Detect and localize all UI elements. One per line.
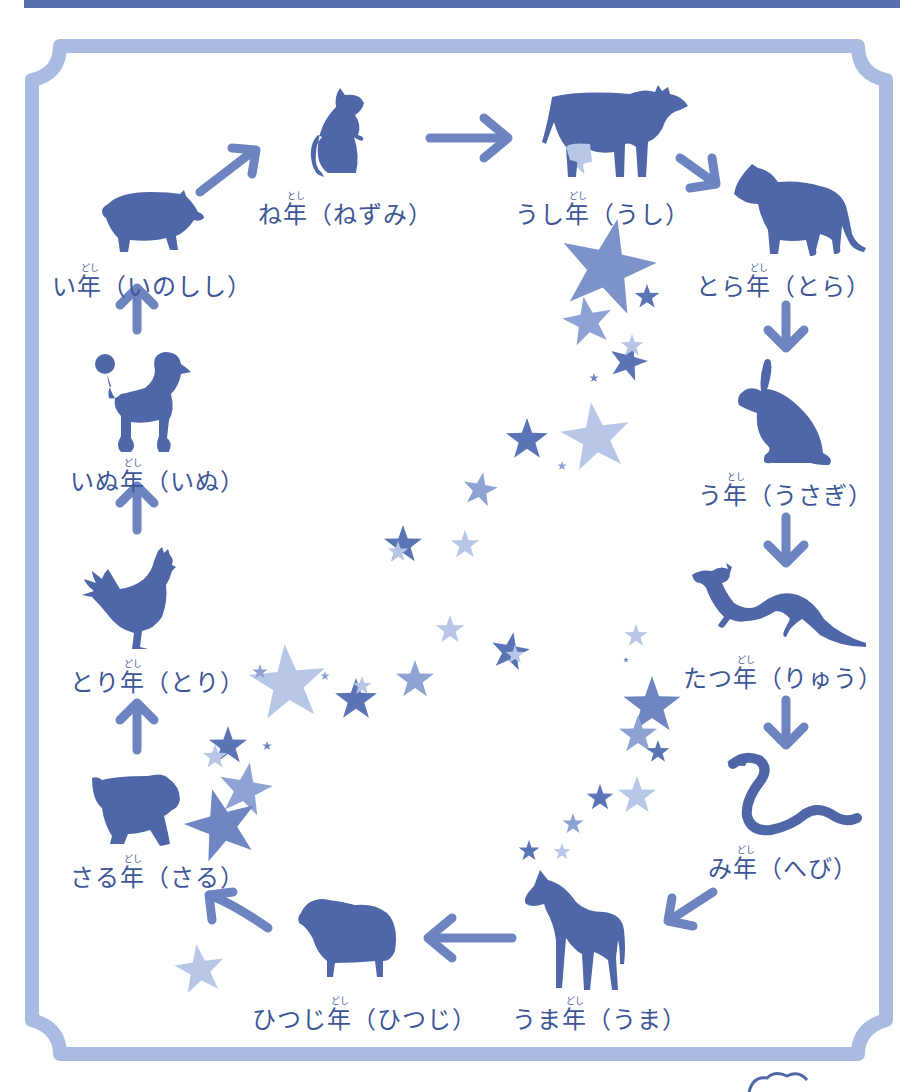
label-ne: ねとし年（ねずみ） bbox=[258, 203, 433, 227]
label-prefix: うし bbox=[515, 201, 565, 229]
ruby-toshi: どし bbox=[124, 855, 142, 864]
ruby-toshi: どし bbox=[331, 997, 349, 1006]
arrow-icon-ne-to-ushi bbox=[430, 118, 508, 158]
ruby-toshi: どし bbox=[81, 264, 99, 273]
label-reading: （いぬ） bbox=[145, 468, 245, 496]
ruby-toshi: どし bbox=[750, 264, 768, 273]
kanji-year: 年 bbox=[562, 1006, 587, 1034]
label-reading: （うさぎ） bbox=[748, 482, 873, 510]
label-u: うとし年（うさぎ） bbox=[698, 484, 873, 508]
label-ushi: うしどし年（うし） bbox=[515, 203, 690, 227]
label-inu: いぬどし年（いぬ） bbox=[70, 470, 245, 494]
arrow-icon-saru-to-tori bbox=[120, 703, 154, 750]
label-reading: （へび） bbox=[758, 855, 858, 883]
label-reading: （うし） bbox=[590, 201, 690, 229]
arrow-icon-i-to-ne bbox=[200, 148, 256, 192]
ruby-toshi: どし bbox=[566, 997, 584, 1006]
sheep-icon bbox=[295, 895, 400, 980]
kanji-year: 年 bbox=[327, 1006, 352, 1034]
kanji-year: 年 bbox=[120, 669, 145, 697]
label-prefix: さる bbox=[70, 864, 120, 892]
label-reading: （とら） bbox=[771, 273, 871, 301]
monkey-icon bbox=[88, 772, 188, 852]
poodle-icon bbox=[95, 350, 195, 455]
label-prefix: い bbox=[52, 273, 77, 301]
label-prefix: とら bbox=[696, 273, 746, 301]
label-reading: （ねずみ） bbox=[308, 201, 433, 229]
label-prefix: うま bbox=[512, 1006, 562, 1034]
label-reading: （うま） bbox=[587, 1006, 687, 1034]
ruby-toshi: どし bbox=[737, 656, 755, 665]
arrow-icon-u-to-tatsu bbox=[768, 517, 804, 563]
ruby-toshi: どし bbox=[124, 660, 142, 669]
cloud-swirl-icon bbox=[745, 1070, 835, 1092]
label-reading: （ひつじ） bbox=[352, 1006, 477, 1034]
label-prefix: たつ bbox=[683, 665, 733, 693]
ruby-toshi: どし bbox=[569, 192, 587, 201]
kanji-year: 年 bbox=[723, 482, 748, 510]
label-prefix: とり bbox=[70, 669, 120, 697]
label-reading: （りゅう） bbox=[758, 665, 883, 693]
kanji-year: 年 bbox=[746, 273, 771, 301]
label-uma: うまどし年（うま） bbox=[512, 1008, 687, 1032]
label-hitsuji: ひつじどし年（ひつじ） bbox=[252, 1008, 477, 1032]
label-prefix: ね bbox=[258, 201, 283, 229]
kanji-year: 年 bbox=[120, 468, 145, 496]
label-tora: とらどし年（とら） bbox=[696, 275, 871, 299]
kanji-year: 年 bbox=[120, 864, 145, 892]
ruby-toshi: とし bbox=[727, 473, 745, 482]
arrow-icon-uma-to-hitsuji bbox=[428, 918, 512, 958]
rat-icon bbox=[300, 85, 380, 180]
kanji-year: 年 bbox=[733, 665, 758, 693]
label-tori: とりどし年（とり） bbox=[70, 671, 245, 695]
ruby-toshi: どし bbox=[124, 459, 142, 468]
label-prefix: う bbox=[698, 482, 723, 510]
kanji-year: 年 bbox=[565, 201, 590, 229]
label-reading: （いのしし） bbox=[102, 273, 252, 301]
ruby-toshi: とし bbox=[287, 192, 305, 201]
kanji-year: 年 bbox=[733, 855, 758, 883]
dragon-icon bbox=[690, 563, 870, 653]
arrow-icon-tatsu-to-mi bbox=[768, 700, 804, 745]
label-tatsu: たつどし年（りゅう） bbox=[683, 667, 883, 691]
arrow-icon-mi-to-uma bbox=[668, 892, 713, 926]
label-mi: みどし年（へび） bbox=[708, 857, 858, 881]
label-prefix: ひつじ bbox=[252, 1006, 327, 1034]
label-reading: （さる） bbox=[145, 864, 245, 892]
rabbit-icon bbox=[735, 355, 835, 470]
kanji-year: 年 bbox=[77, 273, 102, 301]
tiger-icon bbox=[730, 160, 870, 260]
ox-icon bbox=[540, 82, 690, 182]
label-reading: （とり） bbox=[145, 669, 245, 697]
label-saru: さるどし年（さる） bbox=[70, 866, 245, 890]
arrow-icon-tora-to-u bbox=[768, 305, 804, 348]
rooster-icon bbox=[78, 545, 178, 655]
ruby-toshi: どし bbox=[737, 846, 755, 855]
label-prefix: いぬ bbox=[70, 468, 120, 496]
kanji-year: 年 bbox=[283, 201, 308, 229]
horse-icon bbox=[520, 868, 630, 993]
arrow-icon-hitsuji-to-saru bbox=[209, 892, 268, 928]
snake-icon bbox=[725, 752, 865, 842]
label-i: いどし年（いのしし） bbox=[52, 275, 252, 299]
boar-icon bbox=[100, 190, 210, 255]
label-prefix: み bbox=[708, 855, 733, 883]
